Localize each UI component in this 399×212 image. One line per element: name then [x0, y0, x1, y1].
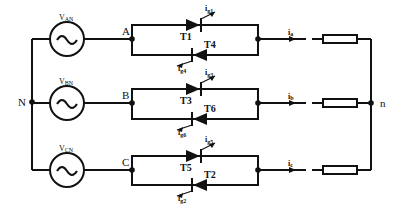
svg-text:ig3: ig3 — [205, 68, 213, 78]
label-t5: T5 — [180, 162, 192, 173]
thyristor-icon-t2 — [193, 179, 207, 191]
svg-text:ib: ib — [288, 92, 294, 101]
svg-text:ic: ic — [288, 159, 293, 168]
label-t2: T2 — [204, 169, 216, 180]
phase-c: VCN C T5 ig5 T2 ig2 ic — [32, 135, 371, 204]
node-label-C: C — [122, 156, 129, 168]
label-t3: T3 — [180, 95, 192, 106]
thyristor-icon-t1 — [186, 19, 200, 31]
circuit-diagram: N n VAN A T1 ig1 T4 ig4 ia — [0, 0, 399, 212]
svg-text:ig1: ig1 — [205, 4, 213, 14]
label-t4: T4 — [204, 39, 216, 50]
thyristor-icon-t5 — [186, 150, 200, 162]
node-label-B: B — [122, 89, 129, 101]
label-t1: T1 — [180, 31, 192, 42]
label-t6: T6 — [204, 103, 216, 114]
thyristor-icon-t3 — [186, 83, 200, 95]
phase-a: VAN A T1 ig1 T4 ig4 ia — [32, 4, 371, 74]
svg-text:VBN: VBN — [59, 77, 74, 86]
svg-text:VCN: VCN — [59, 144, 74, 153]
svg-text:ia: ia — [288, 28, 293, 37]
resistor-icon-b — [323, 99, 357, 107]
thyristor-icon-t4 — [193, 49, 207, 61]
svg-text:ig5: ig5 — [205, 135, 213, 145]
node-label-A: A — [122, 25, 130, 37]
phase-b: VBN B T3 ig3 T6 ig6 ib — [32, 68, 371, 138]
svg-text:VAN: VAN — [59, 13, 74, 22]
neutral-label-n: n — [380, 97, 386, 109]
resistor-icon-a — [323, 35, 357, 43]
neutral-label-N: N — [18, 96, 26, 108]
resistor-icon-c — [323, 166, 357, 174]
thyristor-icon-t6 — [193, 113, 207, 125]
